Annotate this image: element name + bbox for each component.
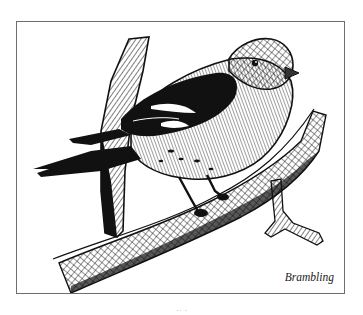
- illustration-frame: Brambling: [16, 21, 345, 294]
- bird-eye: [252, 60, 258, 66]
- page-number-partial: ·· ·: [176, 305, 187, 315]
- brambling-illustration: [17, 22, 345, 294]
- figure-caption: Brambling: [285, 271, 334, 283]
- side-twig: [265, 179, 323, 245]
